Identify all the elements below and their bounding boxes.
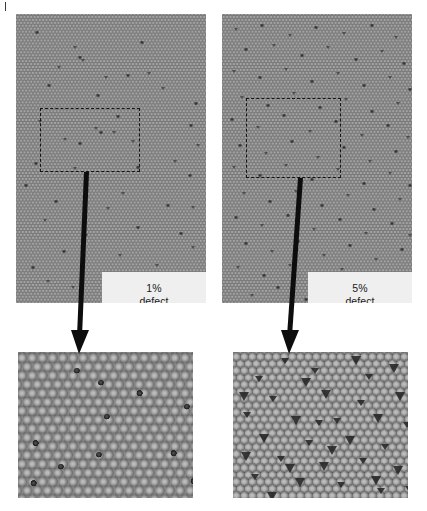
figure-root: 1% defect 5% defect bbox=[0, 0, 427, 511]
zoom-arrow-right bbox=[0, 0, 427, 511]
